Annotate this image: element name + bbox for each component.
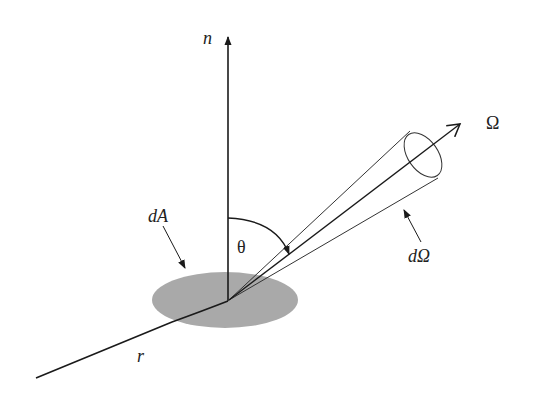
label-r: r xyxy=(137,346,145,366)
label-theta: θ xyxy=(237,237,246,257)
direction-vector-omega xyxy=(229,124,460,300)
area-element-dA xyxy=(152,272,298,328)
radiance-diagram: n Ω dA θ dΩ r xyxy=(0,0,541,404)
label-dOmega: dΩ xyxy=(408,246,430,266)
dOmega-pointer-arrow xyxy=(404,210,421,242)
ray-r xyxy=(36,301,228,378)
label-omega: Ω xyxy=(486,113,499,133)
solid-angle-cone xyxy=(229,126,450,300)
label-n: n xyxy=(203,28,212,48)
dA-pointer-arrow xyxy=(163,226,185,268)
label-dA: dA xyxy=(148,206,169,226)
